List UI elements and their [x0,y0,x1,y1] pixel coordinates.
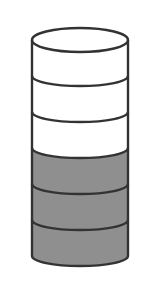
cylinder-diagram [0,0,146,288]
top-ellipse [32,28,128,52]
cylinder-svg [0,0,146,288]
